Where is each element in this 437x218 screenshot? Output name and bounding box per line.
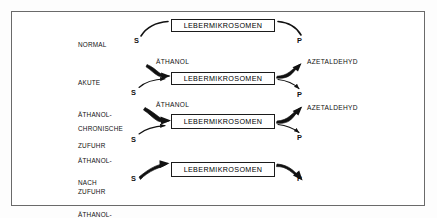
arrow-box-to-acetaldehyde-chronische (277, 107, 303, 124)
arrow-s-to-box-normal (141, 22, 168, 37)
arrow-s-to-box-chronische (139, 126, 165, 134)
arrow-ethanol-to-box-chronische (144, 108, 172, 125)
arrow-ethanol-to-box-akute (146, 65, 171, 80)
arrow-box-to-acetaldehyde-akute (277, 63, 302, 78)
figure-canvas: LEBERMIKROSOMEN LEBERMIKROSOMEN LEBERMIK… (0, 0, 437, 218)
arrow-s-to-box-nach-entzug (139, 160, 170, 179)
arrow-box-to-p-nach-entzug (277, 164, 303, 180)
arrow-box-to-p-akute (278, 80, 299, 89)
arrow-s-to-box-akute (139, 79, 165, 88)
arrow-box-to-p-normal (278, 22, 301, 36)
arrow-layer (0, 0, 437, 218)
arrow-box-to-p-chronische (278, 125, 299, 133)
